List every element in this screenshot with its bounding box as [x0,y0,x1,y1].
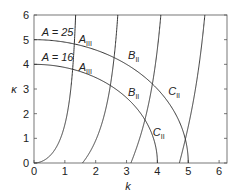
annotation-label: CII [153,126,165,140]
y-tick-label: 0 [23,157,29,169]
y-tick-label: 1 [23,132,29,144]
y-tick-label: 2 [23,108,29,120]
curve-branch-2 [82,15,118,163]
x-tick-label: 6 [216,165,222,177]
annotation-label: A = 25 [41,26,75,38]
curve-branch-4 [179,15,205,163]
y-tick-label: 6 [23,9,29,21]
x-tick-label: 0 [31,165,37,177]
y-tick-label: 3 [23,83,29,95]
x-tick-label: 1 [62,165,68,177]
x-tick-label: 2 [93,165,99,177]
y-tick-label: 5 [23,34,29,46]
chart: 01234560123456 A = 25A = 16AIIIAIIIBIIBI… [0,0,239,196]
annotation-label: BII [128,86,139,100]
curve-A--16 [34,64,157,163]
y-tick-label: 4 [23,58,29,70]
annotation-label: A = 16 [41,51,75,63]
annotation-label: AIII [78,33,92,47]
annotation-label: BII [128,49,139,63]
x-tick-label: 4 [154,165,160,177]
annotation-label: CII [168,85,180,99]
x-tick-label: 5 [185,165,191,177]
annotation-label: AIII [78,61,92,75]
y-axis-label: κ [11,83,17,95]
x-axis-label: k [125,180,131,192]
x-tick-label: 3 [123,165,129,177]
